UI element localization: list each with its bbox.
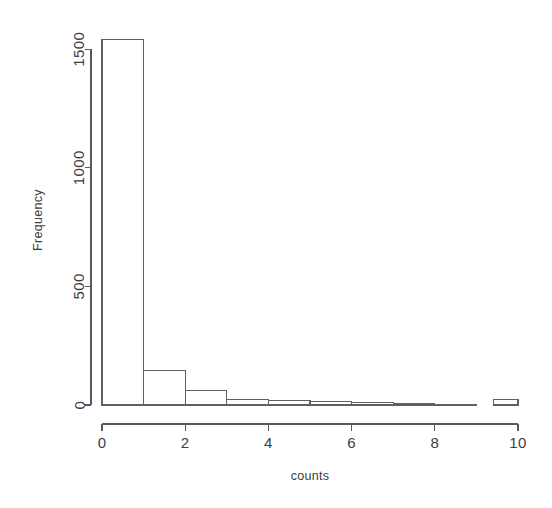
histogram-figure: 050010001500 0246810 Frequency counts: [0, 0, 552, 508]
y-axis-tick-label: 0: [71, 401, 88, 410]
x-axis-tick-label: 10: [509, 434, 527, 451]
histogram-bar: [185, 391, 227, 405]
y-axis-title: Frequency: [31, 189, 45, 251]
x-axis-tick-label: 0: [98, 434, 107, 451]
histogram-bar: [268, 400, 310, 405]
x-axis-tick-label: 2: [181, 434, 190, 451]
histogram-bar: [435, 404, 477, 405]
histogram-bar: [102, 40, 144, 405]
y-axis-tick-label: 1000: [71, 150, 88, 185]
histogram-bar: [144, 371, 186, 405]
y-axis-tick-label: 1500: [71, 32, 88, 67]
histogram-bar: [352, 403, 394, 405]
x-axis-tick-label: 6: [347, 434, 356, 451]
histogram-plot: 050010001500 0246810 Frequency counts: [0, 0, 552, 508]
x-axis-title: counts: [291, 469, 330, 483]
x-axis-tick-label: 4: [264, 434, 273, 451]
plot-background: [0, 0, 552, 508]
x-axis-tick-label: 8: [430, 434, 439, 451]
histogram-bar: [310, 402, 352, 405]
histogram-bar: [227, 400, 269, 405]
histogram-bar: [493, 399, 518, 405]
histogram-bar: [393, 404, 435, 405]
y-axis-tick-label: 500: [71, 273, 88, 299]
